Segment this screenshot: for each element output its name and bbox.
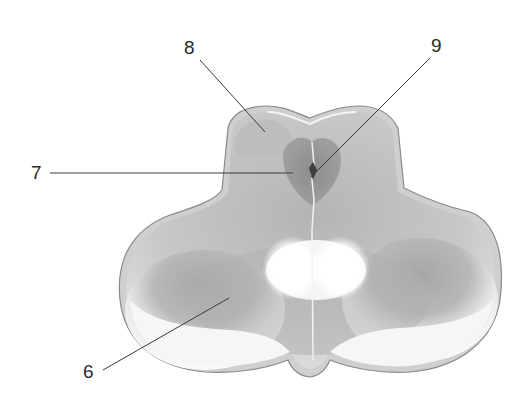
brainstem-cross-section (0, 0, 523, 408)
label-7: 7 (31, 163, 42, 182)
label-9: 9 (431, 36, 442, 55)
diagram-stage: 8 9 7 6 (0, 0, 523, 408)
label-8: 8 (184, 38, 195, 57)
label-6: 6 (83, 362, 94, 381)
